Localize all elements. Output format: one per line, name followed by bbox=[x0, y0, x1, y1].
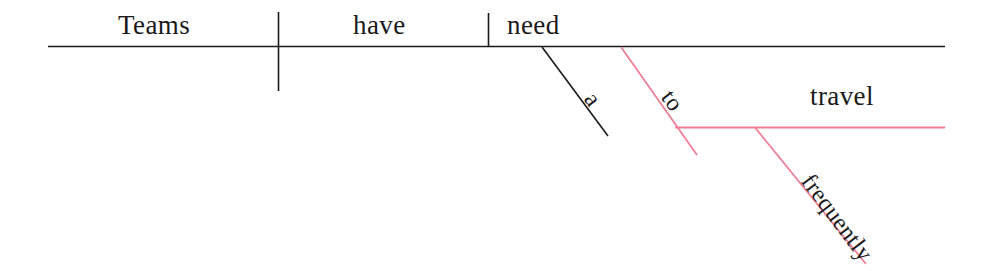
sentence-diagram: Teams have need travel a to frequently bbox=[0, 0, 994, 271]
word-object-need: need bbox=[507, 12, 560, 39]
word-verb-have: have bbox=[353, 12, 406, 39]
word-infinitive-verb-travel: travel bbox=[810, 83, 874, 110]
word-subject-teams: Teams bbox=[118, 12, 190, 39]
